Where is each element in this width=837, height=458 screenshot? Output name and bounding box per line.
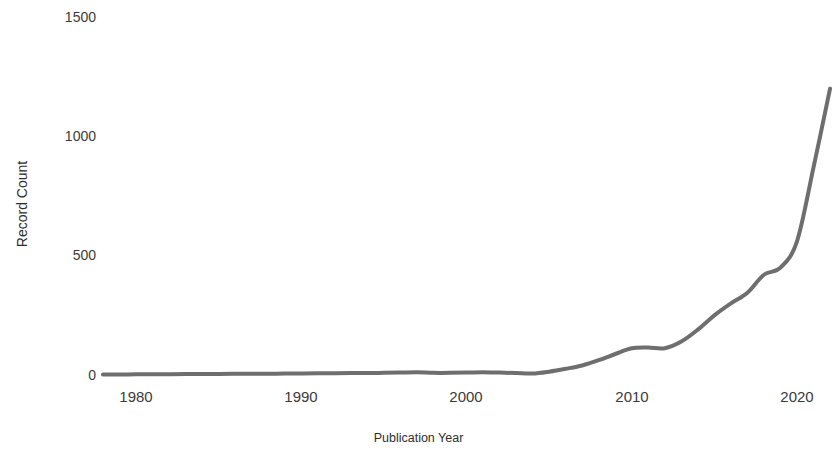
- publication-year-record-count-chart: 1500 1000 500 0 Record Count 1980 1990 2…: [0, 0, 837, 458]
- line-plot-area: [0, 0, 837, 458]
- record-count-line-series: [103, 89, 830, 375]
